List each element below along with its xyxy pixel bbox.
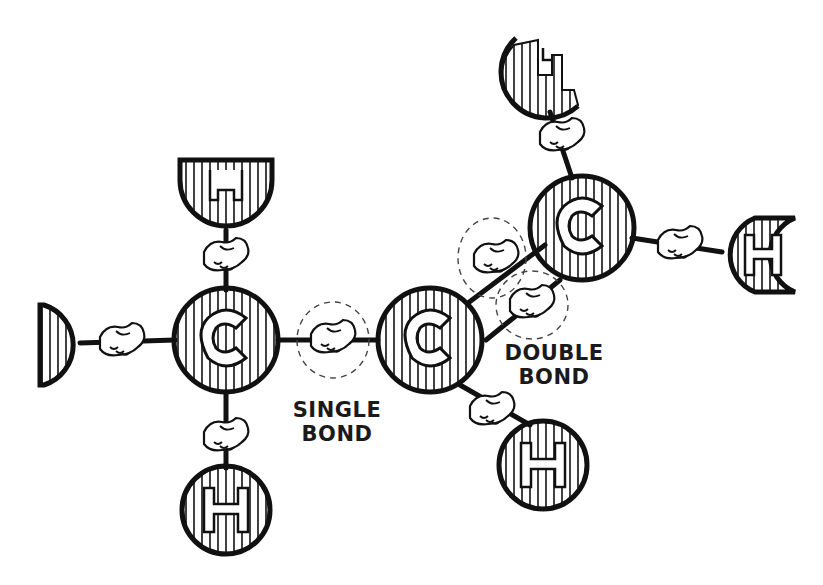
hydrogen-atom-left <box>40 305 73 385</box>
single-bond-label: SINGLE BOND <box>282 398 392 446</box>
double-bond-label-line2: BOND <box>496 365 612 389</box>
carbon-atom-2 <box>378 288 482 392</box>
handshake-icon <box>100 323 144 355</box>
hydrogen-atom-right <box>730 218 795 292</box>
hydrogen-atom-bottom-right <box>499 421 587 509</box>
double-bond-label: DOUBLE BOND <box>496 341 612 389</box>
handshake-icon <box>510 285 554 317</box>
handshake-icon <box>204 238 248 270</box>
handshake-icon <box>204 418 248 450</box>
handshake-icon <box>470 392 514 424</box>
handshake-icon <box>311 320 355 352</box>
carbon-atom-1 <box>174 288 278 392</box>
carbon-atom-3 <box>530 176 634 280</box>
atoms <box>40 38 795 554</box>
handshake-icon <box>540 118 584 150</box>
handshake-icon <box>658 226 702 258</box>
double-bond-label-line1: DOUBLE <box>496 341 612 365</box>
hydrogen-atom-top-right <box>501 38 578 119</box>
bond-sticks <box>80 112 722 468</box>
single-bond-label-line1: SINGLE <box>282 398 392 422</box>
hydrogen-atom-bottom-left <box>182 466 270 554</box>
molecule-illustration <box>0 0 823 585</box>
single-bond-label-line2: BOND <box>282 422 392 446</box>
hydrogen-atom-top-left <box>180 160 272 226</box>
